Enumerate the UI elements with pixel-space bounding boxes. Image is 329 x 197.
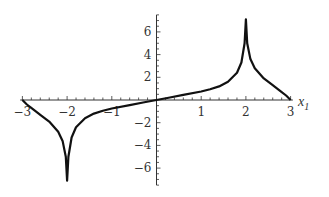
chart: −3−2−1123642−2−4−6 x1 [0, 0, 329, 197]
y-tick-label: 4 [144, 48, 152, 62]
y-tick-label: 6 [144, 25, 152, 39]
y-tick-label: −2 [134, 116, 152, 130]
y-tick-label: −6 [134, 161, 152, 175]
x-axis-label: x1 [297, 94, 309, 112]
x-tick-label: 3 [287, 105, 295, 119]
y-tick-label: 2 [144, 70, 152, 84]
y-tick-label: −4 [134, 138, 152, 152]
x-tick-label: 1 [197, 105, 205, 119]
x-tick-label: −2 [58, 105, 76, 119]
x-tick-label: 2 [242, 105, 250, 119]
